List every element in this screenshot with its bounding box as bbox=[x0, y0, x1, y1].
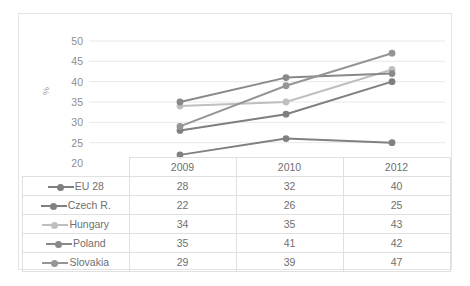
legend-entry-poland[interactable]: Poland bbox=[23, 234, 130, 253]
table-row: Slovakia293947 bbox=[23, 253, 451, 272]
data-point bbox=[389, 139, 396, 146]
data-point bbox=[283, 111, 290, 118]
table-cell: 32 bbox=[236, 177, 343, 196]
table-row: Czech R.222625 bbox=[23, 196, 451, 215]
table-cell: 41 bbox=[236, 234, 343, 253]
legend-label: Hungary bbox=[69, 218, 109, 230]
legend-entry-czech-r-[interactable]: Czech R. bbox=[23, 196, 130, 215]
table-cell: 22 bbox=[129, 196, 236, 215]
legend-marker-icon bbox=[42, 258, 68, 268]
table-cell: 25 bbox=[343, 196, 450, 215]
data-point bbox=[283, 135, 290, 142]
series-lines bbox=[19, 14, 451, 159]
data-table: 200920102012 EU 28283240Czech R.222625Hu… bbox=[22, 157, 451, 272]
table-column-header-2012: 2012 bbox=[343, 158, 450, 177]
legend-label: Slovakia bbox=[69, 256, 109, 268]
legend-marker-icon bbox=[46, 239, 72, 249]
legend-marker-icon bbox=[42, 220, 68, 230]
table-row: Hungary343543 bbox=[23, 215, 451, 234]
table-cell: 34 bbox=[129, 215, 236, 234]
table-cell: 35 bbox=[236, 215, 343, 234]
table-head: 200920102012 bbox=[23, 158, 451, 177]
table-column-header-2009: 2009 bbox=[129, 158, 236, 177]
data-point bbox=[177, 123, 184, 130]
data-point bbox=[283, 82, 290, 89]
chart-figure: % 50454035302520 200920102012 EU 2828324… bbox=[18, 13, 452, 270]
table-cell: 47 bbox=[343, 253, 450, 272]
data-point bbox=[283, 99, 290, 106]
table-cell: 26 bbox=[236, 196, 343, 215]
data-point bbox=[389, 50, 396, 57]
legend-label: Czech R. bbox=[68, 199, 111, 211]
data-point bbox=[177, 99, 184, 106]
table-cell: 29 bbox=[129, 253, 236, 272]
table-header-row: 200920102012 bbox=[23, 158, 451, 177]
table-cell: 40 bbox=[343, 177, 450, 196]
table-column-header-2010: 2010 bbox=[236, 158, 343, 177]
data-point bbox=[283, 74, 290, 81]
legend-marker-icon bbox=[41, 201, 67, 211]
legend-entry-slovakia[interactable]: Slovakia bbox=[23, 253, 130, 272]
table-cell: 42 bbox=[343, 234, 450, 253]
table-cell: 28 bbox=[129, 177, 236, 196]
plot-area: % 50454035302520 bbox=[19, 14, 451, 159]
series-czech-r- bbox=[177, 135, 396, 158]
table-cell: 43 bbox=[343, 215, 450, 234]
table-cell: 39 bbox=[236, 253, 343, 272]
table-cell: 35 bbox=[129, 234, 236, 253]
data-point bbox=[389, 70, 396, 77]
legend-label: EU 28 bbox=[75, 180, 104, 192]
legend-marker-icon bbox=[48, 182, 74, 192]
legend-entry-eu-28[interactable]: EU 28 bbox=[23, 177, 130, 196]
legend-entry-hungary[interactable]: Hungary bbox=[23, 215, 130, 234]
legend-label: Poland bbox=[73, 237, 106, 249]
table-body: EU 28283240Czech R.222625Hungary343543Po… bbox=[23, 177, 451, 272]
table-row: Poland354142 bbox=[23, 234, 451, 253]
table-row: EU 28283240 bbox=[23, 177, 451, 196]
data-point bbox=[389, 78, 396, 85]
table-corner-cell bbox=[23, 158, 130, 177]
